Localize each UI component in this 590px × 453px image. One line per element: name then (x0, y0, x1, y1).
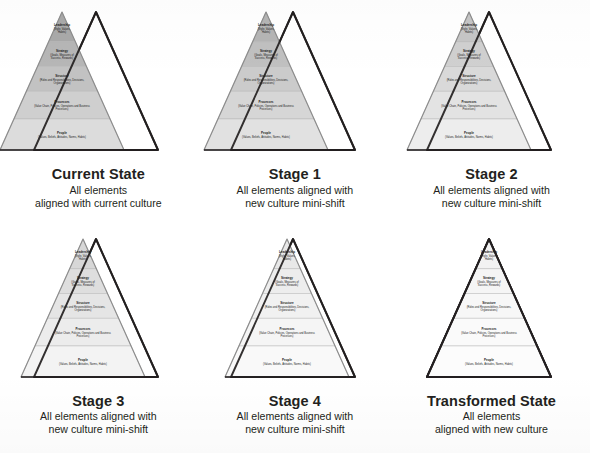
caption-subtitle-stage-1: All elements aligned withnew culture min… (197, 184, 393, 210)
band-detail-processes: Processes) (259, 107, 272, 111)
pyramid-figure-stage-4: Leadership(Style, Values,Habits)Strategy… (197, 227, 393, 395)
band-detail-leadership: Habits) (58, 30, 66, 34)
band-detail-structure: Organizations) (75, 307, 92, 311)
band-detail-strategy: Success, Rewards) (276, 282, 298, 286)
pyramid-figure-stage-1: Leadership(Style, Values,Habits)Strategy… (197, 0, 393, 168)
band-detail-processes: Processes) (483, 334, 496, 338)
caption-subtitle-stage-3: All elements aligned withnew culture min… (0, 410, 196, 436)
caption-subtitle-line: All elements aligned with (197, 184, 393, 197)
band-detail-structure: Organizations) (461, 81, 478, 85)
caption-title-stage-3: Stage 3 (0, 393, 196, 410)
band-detail-leadership: Habits) (262, 30, 270, 34)
pyramid-figure-transformed-state: Leadership(Style, Values,Habits)Strategy… (393, 227, 589, 395)
caption-subtitle-line: aligned with current culture (0, 197, 196, 210)
band-detail-structure: Organizations) (481, 307, 498, 311)
pyramid-figure-stage-3: Leadership(Style, Values,Habits)Strategy… (0, 227, 196, 395)
caption-subtitle-line: All elements aligned with (197, 410, 393, 423)
caption-stage-4: Stage 4All elements aligned withnew cult… (197, 393, 393, 437)
panel-transformed-state: Leadership(Style, Values,Habits)Strategy… (393, 227, 590, 453)
caption-subtitle-line: new culture mini-shift (0, 423, 196, 436)
band-detail-processes: Processes) (280, 334, 293, 338)
panel-current-state: Leadership(Style, Values,Habits)Strategy… (0, 0, 197, 227)
band-detail-people: (Values, Beliefs, Attitudes, Norms, Habi… (446, 135, 494, 139)
band-title-structure: Structure (280, 301, 294, 305)
caption-title-transformed-state: Transformed State (393, 393, 589, 410)
caption-subtitle-line: All elements aligned with (0, 410, 196, 423)
caption-title-current-state: Current State (0, 166, 196, 183)
band-title-people: People (261, 131, 271, 135)
band-title-strategy: Strategy (281, 276, 293, 280)
band-detail-people: (Values, Beliefs, Attitudes, Norms, Habi… (263, 361, 311, 365)
caption-subtitle-line: All elements (393, 410, 589, 423)
caption-title-stage-1: Stage 1 (197, 166, 393, 183)
caption-stage-3: Stage 3All elements aligned withnew cult… (0, 393, 196, 437)
caption-stage-1: Stage 1All elements aligned withnew cult… (197, 166, 393, 210)
panel-stage-1: Leadership(Style, Values,Habits)Strategy… (197, 0, 394, 227)
band-title-processes: Processes (258, 100, 273, 104)
band-title-processes: Processes (462, 100, 477, 104)
caption-transformed-state: Transformed StateAll elementsaligned wit… (393, 393, 589, 437)
layered-pyramid-stage-4: Leadership(Style, Values,Habits)Strategy… (225, 239, 349, 377)
band-title-strategy: Strategy (483, 276, 495, 280)
caption-subtitle-line: new culture mini-shift (393, 197, 589, 210)
band-title-people: People (282, 358, 292, 362)
panel-grid: Leadership(Style, Values,Habits)Strategy… (0, 0, 590, 453)
caption-subtitle-current-state: All elementsaligned with current culture (0, 184, 196, 210)
band-title-structure: Structure (483, 301, 497, 305)
caption-subtitle-line: All elements (0, 184, 196, 197)
caption-current-state: Current StateAll elementsaligned with cu… (0, 166, 196, 210)
band-title-strategy: Strategy (56, 49, 68, 53)
band-detail-leadership: Habits) (485, 256, 493, 260)
band-title-leadership: Leadership (461, 23, 477, 27)
caption-subtitle-stage-4: All elements aligned withnew culture min… (197, 410, 393, 436)
band-title-people: People (465, 131, 475, 135)
caption-subtitle-line: new culture mini-shift (197, 423, 393, 436)
caption-subtitle-transformed-state: All elementsaligned with new culture (393, 410, 589, 436)
caption-title-stage-4: Stage 4 (197, 393, 393, 410)
panel-stage-4: Leadership(Style, Values,Habits)Strategy… (197, 227, 394, 453)
band-detail-structure: Organizations) (278, 307, 295, 311)
band-detail-strategy: Success, Rewards) (51, 56, 73, 60)
band-detail-leadership: Habits) (465, 30, 473, 34)
band-detail-people: (Values, Beliefs, Attitudes, Norms, Habi… (466, 361, 514, 365)
band-title-people: People (78, 358, 88, 362)
pyramid-figure-stage-2: Leadership(Style, Values,Habits)Strategy… (393, 0, 589, 168)
caption-stage-2: Stage 2All elements aligned withnew cult… (393, 166, 589, 210)
caption-subtitle-line: new culture mini-shift (197, 197, 393, 210)
pyramid-figure-current-state: Leadership(Style, Values,Habits)Strategy… (0, 0, 196, 168)
band-detail-processes: Processes) (463, 107, 476, 111)
band-detail-processes: Processes) (56, 107, 69, 111)
band-title-processes: Processes (76, 327, 91, 331)
band-title-people: People (485, 358, 495, 362)
band-title-people: People (57, 131, 67, 135)
band-title-strategy: Strategy (260, 49, 272, 53)
band-title-structure: Structure (259, 74, 273, 78)
band-title-structure: Structure (463, 74, 477, 78)
band-detail-people: (Values, Beliefs, Attitudes, Norms, Habi… (38, 135, 86, 139)
diagram-sheet: Leadership(Style, Values,Habits)Strategy… (0, 0, 590, 453)
caption-subtitle-line: All elements aligned with (393, 184, 589, 197)
caption-title-stage-2: Stage 2 (393, 166, 589, 183)
band-title-processes: Processes (279, 327, 294, 331)
band-title-leadership: Leadership (54, 23, 70, 27)
layered-pyramid-transformed-state: Leadership(Style, Values,Habits)Strategy… (427, 239, 551, 377)
band-title-structure: Structure (77, 301, 91, 305)
band-detail-people: (Values, Beliefs, Attitudes, Norms, Habi… (242, 135, 290, 139)
band-title-processes: Processes (482, 327, 497, 331)
band-detail-processes: Processes) (77, 334, 90, 338)
band-detail-strategy: Success, Rewards) (478, 282, 500, 286)
panel-stage-3: Leadership(Style, Values,Habits)Strategy… (0, 227, 197, 453)
caption-subtitle-stage-2: All elements aligned withnew culture min… (393, 184, 589, 210)
band-title-leadership: Leadership (258, 23, 274, 27)
caption-subtitle-line: aligned with new culture (393, 423, 589, 436)
band-detail-structure: Organizations) (54, 81, 71, 85)
panel-stage-2: Leadership(Style, Values,Habits)Strategy… (393, 0, 590, 227)
band-title-strategy: Strategy (463, 49, 475, 53)
band-detail-people: (Values, Beliefs, Attitudes, Norms, Habi… (59, 361, 107, 365)
